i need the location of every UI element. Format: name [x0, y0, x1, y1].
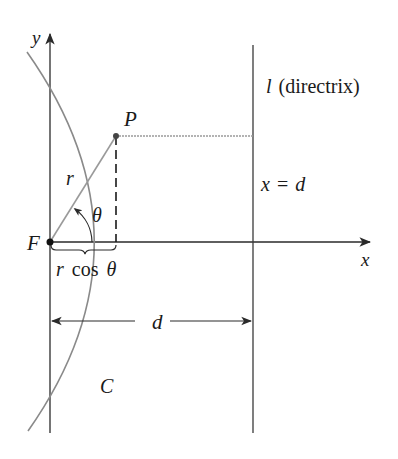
- conic-directrix-diagram: y x l (directrix) x = d C r θ r cos θ F …: [0, 0, 398, 459]
- x-axis-label: x: [360, 249, 370, 270]
- point-p-label: P: [123, 107, 137, 131]
- directrix-equation: x = d: [260, 173, 306, 195]
- distance-d-label: d: [152, 310, 163, 334]
- curve-label: C: [100, 375, 114, 397]
- y-axis-label: y: [30, 27, 41, 48]
- point-p: [113, 133, 119, 139]
- projection-brace: [51, 245, 116, 254]
- focus-point: [47, 239, 54, 246]
- angle-arc: [75, 209, 92, 242]
- radius-label: r: [66, 167, 74, 189]
- focus-label: F: [26, 231, 40, 255]
- radius-line: [50, 136, 116, 242]
- directrix-label: l (directrix): [266, 75, 360, 98]
- angle-label: θ: [92, 204, 102, 226]
- projection-label: r cos θ: [56, 258, 116, 280]
